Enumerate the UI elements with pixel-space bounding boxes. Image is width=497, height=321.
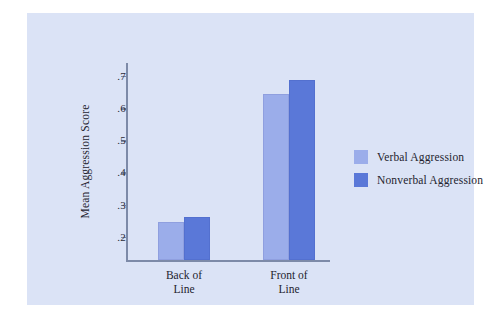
y-axis-title: Mean Aggression Score [79, 63, 95, 260]
bar-back-of-line-verbal[interactable] [158, 222, 184, 260]
y-tick-label-2: .4 [117, 166, 126, 178]
legend-swatch-verbal-aggression [354, 150, 368, 164]
legend-item-nonverbal-aggression[interactable]: Nonverbal Aggression [354, 168, 483, 191]
chart-legend: Verbal Aggression Nonverbal Aggression [354, 145, 483, 191]
y-axis-line [126, 63, 128, 260]
x-category-line-1b: Line [234, 282, 344, 296]
x-axis-line [126, 260, 330, 262]
x-category-label-front-of-line: Front of Line [234, 268, 344, 296]
y-tick-label-1: .3 [117, 199, 126, 211]
plot-area: .2 .3 .4 .5 .6 .7 [126, 63, 327, 260]
chart-panel: Mean Aggression Score .2 .3 .4 .5 [27, 13, 474, 305]
bar-front-of-line-nonverbal[interactable] [289, 80, 315, 260]
legend-item-verbal-aggression[interactable]: Verbal Aggression [354, 145, 483, 168]
bar-front-of-line-verbal[interactable] [263, 94, 289, 260]
chart-page: Mean Aggression Score .2 .3 .4 .5 [0, 0, 497, 321]
legend-label-nonverbal-aggression: Nonverbal Aggression [377, 174, 483, 186]
y-tick-label-5: .7 [117, 70, 126, 82]
x-category-line-1a: Front of [234, 268, 344, 282]
y-tick-label-4: .6 [117, 102, 126, 114]
y-tick-label-3: .5 [117, 134, 126, 146]
x-category-label-back-of-line: Back of Line [129, 268, 239, 296]
y-tick-label-0: .2 [117, 231, 126, 243]
x-category-line-0a: Back of [129, 268, 239, 282]
bar-back-of-line-nonverbal[interactable] [184, 217, 210, 260]
legend-label-verbal-aggression: Verbal Aggression [377, 151, 464, 163]
legend-swatch-nonverbal-aggression [354, 173, 368, 187]
x-category-line-0b: Line [129, 282, 239, 296]
